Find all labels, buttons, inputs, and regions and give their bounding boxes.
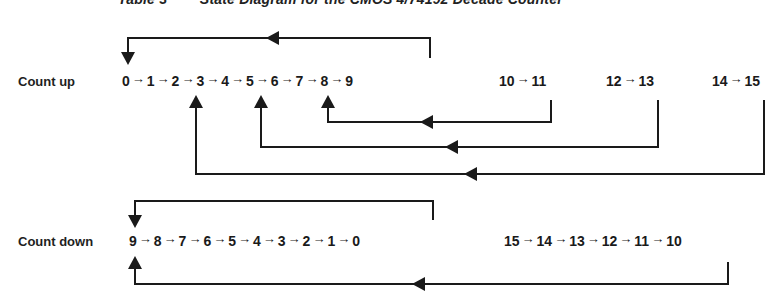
- arrowhead-left-icon: [420, 115, 433, 129]
- wire-13-to-4: [261, 100, 658, 147]
- arrow-right-icon: →: [651, 231, 664, 246]
- arrow-right-icon: →: [330, 71, 343, 86]
- arrow-right-icon: →: [263, 231, 276, 246]
- arrow-right-icon: →: [139, 231, 152, 246]
- arrow-right-icon: →: [206, 71, 219, 86]
- arrow-right-icon: →: [305, 71, 318, 86]
- count-down-label: Count down: [18, 234, 93, 249]
- state: 1: [327, 233, 335, 249]
- arrowhead-left-icon: [445, 140, 458, 154]
- arrow-right-icon: →: [312, 231, 325, 246]
- state: 13: [639, 73, 655, 89]
- arrow-right-icon: →: [181, 71, 194, 86]
- wire-10-to-9: [135, 262, 728, 284]
- arrow-right-icon: →: [587, 231, 600, 246]
- arrow-right-icon: →: [238, 231, 251, 246]
- arrowhead-up-icon: [189, 95, 203, 108]
- state: 4: [253, 233, 261, 249]
- state: 11: [532, 73, 547, 89]
- state: 9: [129, 233, 137, 249]
- state: 5: [228, 233, 236, 249]
- arrowhead-left-icon: [266, 31, 279, 45]
- state: 8: [320, 73, 328, 89]
- arrow-right-icon: →: [132, 71, 145, 86]
- arrow-right-icon: →: [619, 231, 632, 246]
- count-up-label: Count up: [18, 74, 75, 89]
- state: 2: [303, 233, 311, 249]
- state: 7: [296, 73, 304, 89]
- arrow-right-icon: →: [281, 71, 294, 86]
- arrow-right-icon: →: [188, 231, 201, 246]
- state: 5: [246, 73, 254, 89]
- count-up-pair-12-13: 12→13: [606, 73, 654, 89]
- state: 12: [606, 73, 622, 89]
- wire-11-to-6: [328, 100, 551, 122]
- arrowhead-left-icon: [464, 167, 477, 181]
- wire-15-to-2: [196, 100, 764, 174]
- count-up-pair-14-15: 14→15: [712, 73, 760, 89]
- state: 14: [537, 233, 553, 249]
- state: 10: [499, 73, 515, 89]
- arrow-right-icon: →: [517, 71, 530, 86]
- arrowhead-left-icon: [412, 277, 425, 291]
- state: 11: [634, 233, 649, 249]
- arrowhead-up-icon: [128, 256, 142, 269]
- count-down-extra-sequence: 15→14→13→12→11→10: [504, 233, 682, 249]
- arrow-right-icon: →: [554, 231, 567, 246]
- arrow-right-icon: →: [624, 71, 637, 86]
- state: 9: [345, 73, 353, 89]
- state: 15: [504, 233, 520, 249]
- state: 15: [745, 73, 761, 89]
- state: 1: [147, 73, 155, 89]
- state: 4: [221, 73, 229, 89]
- arrow-right-icon: →: [522, 231, 535, 246]
- arrow-right-icon: →: [164, 231, 177, 246]
- state: 0: [122, 73, 130, 89]
- count-down-main-sequence: 9→8→7→6→5→4→3→2→1→0: [129, 233, 360, 249]
- state: 2: [172, 73, 180, 89]
- state: 13: [569, 233, 585, 249]
- arrow-right-icon: →: [231, 71, 244, 86]
- transition-wires: [0, 0, 784, 308]
- state: 12: [602, 233, 618, 249]
- arrow-right-icon: →: [157, 71, 170, 86]
- state: 8: [154, 233, 162, 249]
- state: 10: [666, 233, 682, 249]
- state: 6: [271, 73, 279, 89]
- arrow-right-icon: →: [213, 231, 226, 246]
- count-up-pair-10-11: 10→11: [499, 73, 546, 89]
- arrow-right-icon: →: [256, 71, 269, 86]
- state: 6: [203, 233, 211, 249]
- arrow-right-icon: →: [730, 71, 743, 86]
- state: 3: [278, 233, 286, 249]
- state: 0: [352, 233, 360, 249]
- state: 14: [712, 73, 728, 89]
- arrowhead-up-icon: [254, 95, 268, 108]
- arrowhead-down-icon: [128, 215, 142, 228]
- count-up-main-sequence: 0→1→2→3→4→5→6→7→8→9: [122, 73, 353, 89]
- arrow-right-icon: →: [337, 231, 350, 246]
- wire-0-to-9: [135, 201, 433, 220]
- arrowhead-down-icon: [121, 52, 135, 65]
- arrowhead-up-icon: [321, 95, 335, 108]
- arrow-right-icon: →: [288, 231, 301, 246]
- state: 3: [196, 73, 204, 89]
- state: 7: [179, 233, 187, 249]
